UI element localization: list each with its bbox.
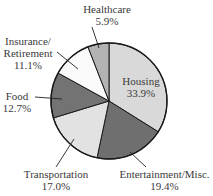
label-insurance: Insurance/ Retirement 11.1% [0, 35, 56, 71]
leader-entertainment [130, 152, 146, 167]
label-healthcare: Healthcare 5.9% [62, 3, 152, 27]
label-housing: Housing 33.9% [115, 75, 167, 99]
label-transportation-name: Transportation [18, 168, 94, 180]
label-entertainment-name: Entertainment/Misc. [116, 168, 213, 180]
label-insurance-pct: 11.1% [0, 59, 56, 71]
label-housing-pct: 33.9% [115, 87, 167, 99]
label-food: Food 12.7% [2, 90, 32, 114]
label-healthcare-name: Healthcare [62, 3, 152, 15]
label-entertainment: Entertainment/Misc. 19.4% [116, 168, 213, 192]
label-insurance-name2: Retirement [0, 47, 56, 59]
label-food-name: Food [2, 90, 32, 102]
leader-transportation [56, 139, 74, 167]
label-healthcare-pct: 5.9% [62, 15, 152, 27]
label-food-pct: 12.7% [2, 102, 32, 114]
label-insurance-name1: Insurance/ [0, 35, 56, 47]
label-entertainment-pct: 19.4% [116, 180, 213, 192]
label-housing-name: Housing [115, 75, 167, 87]
label-transportation: Transportation 17.0% [18, 168, 94, 192]
label-transportation-pct: 17.0% [18, 180, 94, 192]
